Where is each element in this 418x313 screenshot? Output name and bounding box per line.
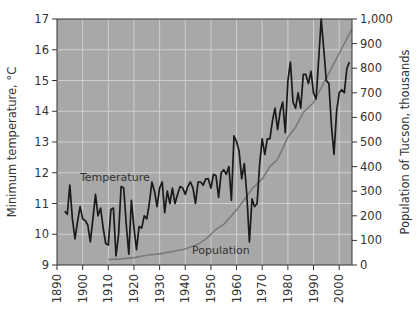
left-tick-label: 10: [34, 227, 49, 241]
x-tick-label: 1910: [101, 274, 115, 303]
x-tick-label: 1950: [204, 274, 218, 303]
population-label: Population: [192, 244, 250, 257]
left-tick-label: 14: [34, 104, 49, 118]
x-tick-label: 1890: [50, 274, 64, 303]
x-tick-label: 1900: [76, 274, 90, 303]
right-tick-label: 200: [360, 209, 382, 223]
left-tick-label: 12: [34, 166, 49, 180]
right-tick-label: 500: [360, 135, 382, 149]
x-tick-label: 1930: [153, 274, 167, 303]
left-tick-label: 9: [42, 258, 49, 272]
x-axis-ticks: 1890190019101920193019401950196019701980…: [50, 265, 346, 303]
right-axis-title: Population of Tucson, thousands: [398, 49, 412, 234]
left-tick-label: 15: [34, 74, 49, 88]
temperature-label: Temperature: [79, 171, 150, 184]
left-tick-label: 13: [34, 135, 49, 149]
left-axis-ticks: 91011121314151617: [34, 12, 57, 272]
right-tick-label: 400: [360, 160, 382, 174]
x-tick-label: 1960: [230, 274, 244, 303]
right-tick-label: 100: [360, 233, 382, 247]
left-axis-title: Minimum temperature, °C: [5, 67, 19, 217]
right-tick-label: 0: [360, 258, 367, 272]
chart: 91011121314151617 0100200300400500600700…: [0, 0, 418, 313]
right-tick-label: 1,000: [360, 12, 393, 26]
x-tick-label: 1990: [307, 274, 321, 303]
right-tick-label: 800: [360, 61, 382, 75]
x-tick-label: 1940: [178, 274, 192, 303]
right-axis-ticks: 01002003004005006007008009001,000: [352, 12, 393, 272]
x-tick-label: 1980: [281, 274, 295, 303]
right-tick-label: 600: [360, 110, 382, 124]
x-tick-label: 1920: [127, 274, 141, 303]
right-tick-label: 700: [360, 86, 382, 100]
right-tick-label: 900: [360, 37, 382, 51]
left-tick-label: 16: [34, 43, 49, 57]
x-tick-label: 2000: [332, 274, 346, 303]
left-tick-label: 11: [34, 197, 49, 211]
x-tick-label: 1970: [255, 274, 269, 303]
right-tick-label: 300: [360, 184, 382, 198]
left-tick-label: 17: [34, 12, 49, 26]
